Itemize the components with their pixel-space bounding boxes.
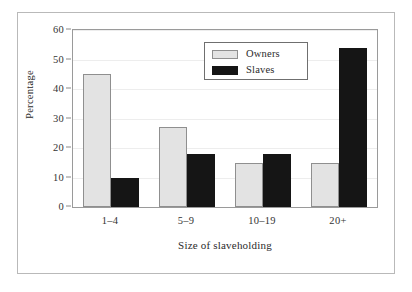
y-axis-tick-mark: [66, 147, 71, 148]
chart-legend: Owners Slaves: [204, 42, 308, 80]
y-axis-tick-label: 40: [53, 83, 64, 94]
y-axis: 0102030405060: [18, 13, 72, 209]
y-axis-tick-label: 30: [53, 112, 64, 123]
legend-entry-slaves: Slaves: [212, 63, 300, 77]
y-axis-tick-mark: [66, 117, 71, 118]
bar-slaves-1–4: [111, 178, 139, 208]
x-axis-tick-label: 1–4: [102, 215, 119, 226]
bar-owners-20+: [311, 163, 339, 207]
bar-owners-1–4: [83, 74, 111, 207]
bar-owners-5–9: [159, 127, 187, 207]
x-axis-title: Size of slaveholding: [72, 239, 378, 251]
y-axis-tick-label: 10: [53, 171, 64, 182]
x-axis: 1–45–910–1920+: [72, 209, 378, 231]
legend-swatch-slaves: [212, 66, 238, 75]
y-axis-tick-mark: [66, 29, 71, 30]
y-axis-tick-label: 50: [53, 53, 64, 64]
chart-figure: Percentage 0102030405060 1–45–910–1920+ …: [17, 12, 395, 274]
x-axis-tick-label: 20+: [329, 215, 346, 226]
legend-swatch-owners: [212, 50, 238, 59]
x-axis-tick-label: 5–9: [178, 215, 195, 226]
bar-owners-10–19: [235, 163, 263, 207]
bar-slaves-5–9: [187, 154, 215, 207]
y-axis-tick-label: 60: [53, 24, 64, 35]
bar-group: [83, 30, 139, 207]
bar-group: [311, 30, 367, 207]
legend-entry-owners: Owners: [212, 47, 300, 61]
y-axis-tick-label: 20: [53, 142, 64, 153]
bar-slaves-20+: [339, 48, 367, 207]
bar-slaves-10–19: [263, 154, 291, 207]
legend-label-owners: Owners: [246, 49, 280, 60]
y-axis-tick-mark: [66, 176, 71, 177]
x-axis-tick-label: 10–19: [248, 215, 276, 226]
y-axis-tick-mark: [66, 206, 71, 207]
y-axis-tick-label: 0: [59, 201, 64, 212]
legend-label-slaves: Slaves: [246, 65, 275, 76]
y-axis-tick-mark: [66, 88, 71, 89]
y-axis-tick-mark: [66, 58, 71, 59]
